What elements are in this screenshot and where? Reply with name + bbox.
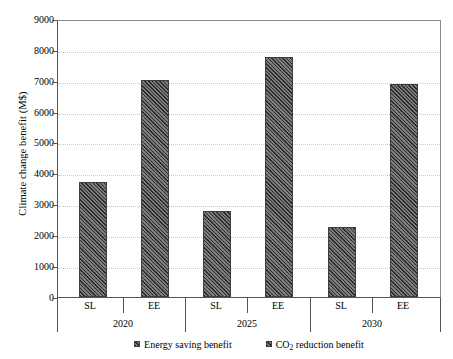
legend-item-co2-reduction-benefit[interactable]: CO2 reduction benefit [266, 339, 364, 350]
x-tick-major-right [440, 298, 441, 332]
x-tick-major-2025-2030 [310, 298, 311, 332]
x-tick-major-2020-2025 [185, 298, 186, 332]
bar-2030-sl[interactable] [328, 227, 356, 297]
chart-legend: Energy saving benefit CO2 reduction bene… [57, 336, 441, 352]
x-label-2020-ee: EE [126, 300, 182, 312]
climate-change-benefit-chart: Climate change benefit (M$) 9000 8000 70… [0, 0, 453, 359]
x-tick-minor-2020 [123, 298, 124, 313]
bar-2030-ee[interactable] [390, 84, 418, 298]
x-label-2030-sl: SL [313, 300, 369, 312]
x-tick-minor-2030 [372, 298, 373, 313]
legend-item-energy-saving-benefit[interactable]: Energy saving benefit [134, 339, 232, 350]
x-tick-minor-2025 [247, 298, 248, 313]
gridline-7000 [58, 83, 440, 84]
x-tick-major-left [57, 298, 58, 332]
bar-2025-sl[interactable] [203, 211, 231, 297]
gridline-6000 [58, 114, 440, 115]
x-group-label-2025: 2025 [219, 318, 275, 330]
legend-label-co2-suffix: reduction benefit [293, 339, 364, 350]
gridline-5000 [58, 144, 440, 145]
legend-label-energy-saving-benefit: Energy saving benefit [144, 339, 232, 350]
legend-swatch-icon [134, 341, 140, 347]
x-label-2030-ee: EE [375, 300, 431, 312]
x-group-label-2030: 2030 [344, 318, 400, 330]
gridline-4000 [58, 175, 440, 176]
bar-2025-ee[interactable] [265, 57, 293, 297]
bar-2020-ee[interactable] [141, 80, 169, 297]
y-tick-label-1000: 1000 [10, 262, 54, 272]
x-label-2025-sl: SL [188, 300, 244, 312]
y-tick-label-2000: 2000 [10, 231, 54, 241]
x-group-label-2020: 2020 [95, 318, 151, 330]
y-tick-label-9000: 9000 [10, 15, 54, 25]
gridline-3000 [58, 206, 440, 207]
plot-area [57, 20, 441, 298]
bar-2020-sl[interactable] [79, 182, 107, 297]
y-tick-label-3000: 3000 [10, 200, 54, 210]
y-tick-label-4000: 4000 [10, 169, 54, 179]
x-label-2020-sl: SL [62, 300, 118, 312]
legend-label-co2-reduction-benefit: CO2 reduction benefit [276, 339, 364, 350]
legend-label-co2-subscript: 2 [290, 343, 294, 352]
gridline-2000 [58, 237, 440, 238]
gridline-1000 [58, 268, 440, 269]
legend-swatch-icon [266, 341, 272, 347]
x-label-2025-ee: EE [250, 300, 306, 312]
y-tick-label-6000: 6000 [10, 108, 54, 118]
y-tick-label-8000: 8000 [10, 46, 54, 56]
y-tick-label-0: 0 [10, 293, 54, 303]
y-tick-label-7000: 7000 [10, 77, 54, 87]
y-tick-label-5000: 5000 [10, 138, 54, 148]
legend-label-co2-prefix: CO [276, 339, 290, 350]
gridline-8000 [58, 52, 440, 53]
